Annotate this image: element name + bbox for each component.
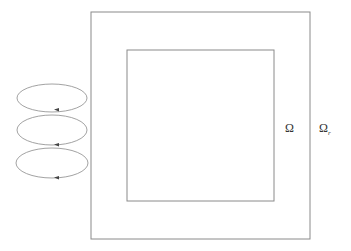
outer-domain-box	[91, 12, 310, 239]
omega-symbol: Ω	[285, 121, 294, 135]
subscript-r: r	[328, 129, 331, 137]
loop-1	[17, 84, 87, 112]
outer-domain-label: Ωr	[319, 122, 331, 134]
arrow-left-icon	[54, 108, 59, 111]
loop-2	[17, 115, 87, 146]
inner-domain-label: Ω	[285, 122, 294, 134]
diagram-canvas	[0, 0, 351, 251]
arrow-left-icon	[54, 143, 59, 146]
loop-3	[16, 148, 88, 179]
arrow-left-icon	[54, 176, 59, 179]
inner-domain-box	[127, 50, 274, 201]
omega-symbol: Ω	[319, 121, 328, 135]
